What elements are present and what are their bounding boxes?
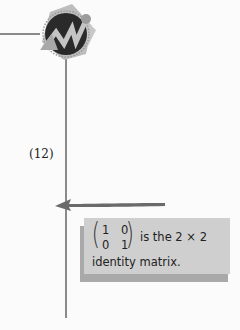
- equation-number: (12): [29, 147, 54, 161]
- left-paren: (: [92, 219, 100, 249]
- matrix-cell: 1: [102, 223, 109, 237]
- rising-graph-badge-icon: [36, 2, 100, 62]
- identity-matrix: ( 1 0 0 1 ): [94, 222, 136, 252]
- callout-text-line1: is the 2 × 2: [140, 230, 207, 244]
- callout-note: ( 1 0 0 1 ) is the 2 × 2 identity matrix…: [84, 218, 230, 274]
- callout-arrow-icon: [55, 197, 165, 213]
- margin-rule-vertical: [65, 40, 67, 318]
- margin-rule-horizontal: [0, 33, 40, 35]
- right-paren: ): [126, 219, 134, 249]
- callout-text-line2: identity matrix.: [92, 255, 181, 269]
- matrix-cell: 0: [102, 238, 109, 252]
